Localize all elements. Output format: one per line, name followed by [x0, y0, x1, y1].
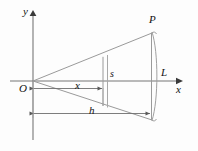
- origin-label: O: [19, 83, 27, 94]
- y-axis-arrowhead: [30, 10, 37, 16]
- figure-container: y x O P L s x h: [0, 0, 198, 151]
- right-arc-curve: [152, 32, 157, 121]
- diagram-svg: [0, 0, 198, 151]
- upper-ray-op: [33, 33, 152, 81]
- y-axis-label: y: [23, 6, 28, 17]
- dimension-x-label: x: [75, 80, 80, 91]
- segment-s-label: s: [110, 69, 114, 79]
- line-l-label: L: [161, 67, 167, 78]
- x-axis-label: x: [176, 84, 181, 95]
- point-p-label: P: [149, 14, 156, 25]
- dimension-h-label: h: [89, 105, 95, 116]
